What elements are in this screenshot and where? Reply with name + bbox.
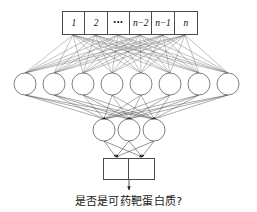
hidden2-node [118, 119, 140, 141]
hidden1-node [130, 73, 152, 95]
hidden1-node [159, 73, 181, 95]
input-cell-2: 2 [85, 12, 107, 34]
edges-hidden1-to-hidden2 [25, 95, 228, 119]
edges-hidden2-to-output [104, 141, 154, 157]
input-cell-n: n [175, 12, 197, 34]
hidden2-node [143, 119, 165, 141]
hidden1-node [43, 73, 65, 95]
input-layer: 1 2 ••• n−2 n−1 n [62, 11, 198, 35]
hidden2-node [93, 119, 115, 141]
edges-input-to-hidden1 [25, 35, 228, 73]
hidden1-node [14, 73, 36, 95]
neural-network-figure: 1 2 ••• n−2 n−1 n 是否是可药靶蛋白质? [0, 0, 257, 212]
hidden1-node [72, 73, 94, 95]
output-cell-right [129, 159, 154, 179]
hidden1-node [188, 73, 210, 95]
figure-caption: 是否是可药靶蛋白质? [0, 192, 257, 208]
input-cell-ellipsis: ••• [108, 12, 130, 34]
input-cell-1: 1 [63, 12, 85, 34]
output-layer [103, 158, 155, 180]
hidden1-node [217, 73, 239, 95]
hidden1-node [101, 73, 123, 95]
figure-top-text-fragment [2, 0, 122, 6]
input-cell-n-minus-1: n−1 [152, 12, 174, 34]
hidden-layer-1-nodes [14, 73, 239, 95]
input-cell-n-minus-2: n−2 [130, 12, 152, 34]
hidden-layer-2-nodes [93, 119, 165, 141]
output-cell-left [104, 159, 129, 179]
